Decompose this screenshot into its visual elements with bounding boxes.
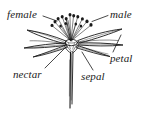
label-nectar: nectar	[13, 69, 42, 80]
leader-line-female	[43, 16, 57, 21]
label-petal: petal	[110, 53, 133, 64]
label-sepal: sepal	[81, 71, 105, 82]
leader-line-male	[92, 16, 108, 22]
stamens-male-organs	[51, 13, 93, 40]
anther-dots	[51, 13, 93, 27]
label-female: female	[7, 9, 37, 20]
leader-line-sepal	[82, 52, 93, 70]
leader-line-petal	[113, 35, 121, 52]
botanical-flower-diagram: female male petal sepal nectar	[0, 0, 145, 114]
flower-stem	[69, 52, 73, 108]
label-male: male	[110, 9, 132, 20]
